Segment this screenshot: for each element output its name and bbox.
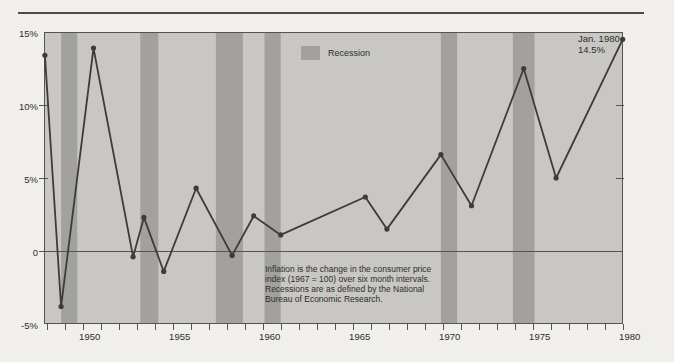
data-point [438,152,443,157]
data-point [59,304,64,309]
annotation-line-1: Jan. 1980 [578,34,620,45]
legend-label: Recession [328,46,370,60]
x-axis-label: 1955 [169,331,190,342]
data-point [194,186,199,191]
y-axis-label: 15% [0,29,38,38]
data-point [251,213,256,218]
data-point [521,66,526,71]
y-axis-label: 10% [0,102,38,111]
x-axis-label: 1980 [619,331,640,342]
recession-swatch [301,46,320,60]
data-point [278,232,283,237]
x-axis-label: 1950 [79,331,100,342]
note-line-3: Recessions are as defined by the Nationa… [265,284,431,294]
data-point [554,175,559,180]
data-point [42,53,47,58]
data-point [384,227,389,232]
x-axis-label: 1965 [349,331,370,342]
annotation-jan-1980: Jan. 1980 14.5% [578,34,620,55]
inflation-chart-page: 15%10%5%0-5%1950195519601965197019751980… [0,0,674,362]
y-axis-label: 0 [0,248,38,257]
data-point [131,254,136,259]
data-point [469,203,474,208]
y-axis-label: 5% [0,175,38,184]
note-line-4: Bureau of Economic Research. [265,294,431,304]
note-line-1: Inflation is the change in the consumer … [265,264,431,274]
y-axis-label: -5% [0,321,38,330]
x-axis-label: 1960 [259,331,280,342]
recession-band [513,32,535,324]
note-line-2: index (1967 = 100) over six month interv… [265,274,431,284]
data-point [230,253,235,258]
recession-band [216,32,243,324]
legend: Recession [301,46,370,60]
source-note: Inflation is the change in the consumer … [265,264,431,304]
x-axis-label: 1975 [529,331,550,342]
data-point [161,269,166,274]
data-point [363,194,368,199]
annotation-line-2: 14.5% [578,45,620,56]
data-point [91,45,96,50]
x-axis-label: 1970 [439,331,460,342]
recession-band [140,32,158,324]
data-point [141,215,146,220]
data-point [620,37,625,42]
